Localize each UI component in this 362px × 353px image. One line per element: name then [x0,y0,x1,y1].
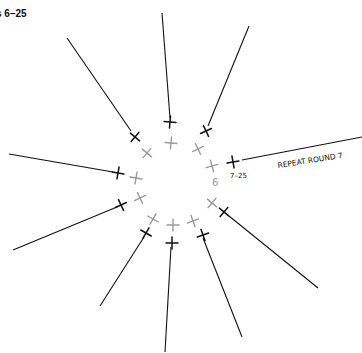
spoke-line [67,38,131,131]
single-crochet-stitch-icon [195,227,210,242]
single-crochet-stitch-icon [166,237,178,249]
single-crochet-stitch-icon [132,190,148,206]
spoke-line [229,216,318,288]
spoke-line [9,154,113,172]
single-crochet-stitch-icon [111,166,125,180]
single-crochet-stitch-icon [226,155,240,169]
spoke-line [100,237,144,306]
round-range-label: 7–25 [230,172,247,180]
single-crochet-stitch-icon [205,159,220,174]
single-crochet-stitch-icon [185,213,200,228]
single-crochet-stitch-icon [145,211,161,227]
spoke-line [13,207,117,250]
single-crochet-stitch-icon [204,195,221,212]
single-crochet-stitch-icon [163,115,176,128]
single-crochet-stitch-icon [127,129,144,146]
single-crochet-stitch-icon [139,145,156,162]
single-crochet-stitch-icon [216,204,233,221]
single-crochet-stitch-icon [138,225,154,241]
round-chart-diagram: REPEAT ROUND 7 7–25 6 [0,0,362,353]
black-stitch-ring [111,115,240,249]
single-crochet-stitch-icon [167,219,179,231]
repeat-round-annotation: REPEAT ROUND 7 [277,151,344,170]
spoke-lines [9,13,362,352]
single-crochet-stitch-icon [198,123,214,139]
spoke-line [165,247,171,352]
single-crochet-stitch-icon [164,136,177,149]
round-number-label: 6 [212,177,218,188]
single-crochet-stitch-icon [190,141,206,157]
gray-stitch-ring [129,136,220,231]
spoke-line [208,26,249,126]
single-crochet-stitch-icon [129,171,143,185]
spoke-line [203,238,242,337]
single-crochet-stitch-icon [113,197,129,213]
spoke-line [162,13,170,118]
